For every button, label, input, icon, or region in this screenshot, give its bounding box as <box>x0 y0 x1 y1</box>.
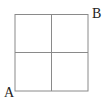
label-a: A <box>4 86 14 100</box>
label-b: B <box>92 7 101 21</box>
